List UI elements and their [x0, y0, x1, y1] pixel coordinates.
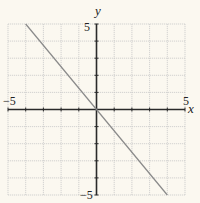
y-tick-label-min: −5 [80, 188, 93, 202]
coordinate-plane: x y −5 5 5 −5 [0, 0, 200, 203]
x-tick-label-max: 5 [183, 94, 189, 108]
y-axis-label: y [93, 3, 101, 18]
y-tick-label-max: 5 [84, 20, 90, 34]
x-tick-label-min: −5 [3, 94, 16, 108]
axis-labels: x y −5 5 5 −5 [3, 3, 194, 202]
